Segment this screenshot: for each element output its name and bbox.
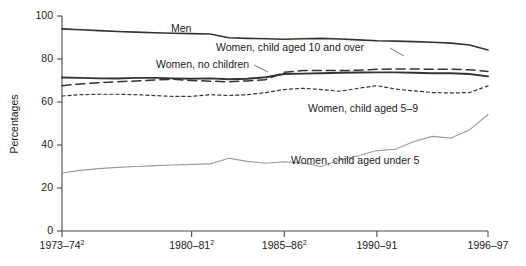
annotation-women-child-under-5: Women, child aged under 5 bbox=[291, 154, 419, 166]
line-chart: 020406080100 Percentages 1973–7421980–81… bbox=[0, 0, 526, 266]
annotation-group: Men Women, child aged 10 and over Women,… bbox=[156, 22, 419, 166]
y-tick-group: 020406080100 bbox=[35, 9, 62, 236]
annotation-women-no-children: Women, no children bbox=[156, 58, 249, 70]
y-tick-label: 20 bbox=[41, 181, 53, 193]
x-tick-group: 1973–7421980–8121985–8621990–911996–97 bbox=[40, 231, 509, 251]
y-tick-label: 40 bbox=[41, 138, 53, 150]
series-line-women-child-aged-5-9 bbox=[62, 86, 488, 97]
x-tick-label: 1990–91 bbox=[356, 239, 397, 251]
x-axis: 1973–7421980–8121985–8621990–911996–97 bbox=[40, 231, 509, 251]
series-line-women-no-children bbox=[62, 69, 488, 86]
x-tick-label: 1996–97 bbox=[468, 239, 509, 251]
y-tick-label: 60 bbox=[41, 95, 53, 107]
y-tick-label: 0 bbox=[47, 224, 53, 236]
annotation-women-child-5-9: Women, child aged 5–9 bbox=[308, 102, 418, 114]
chart-canvas: 020406080100 Percentages 1973–7421980–81… bbox=[0, 0, 526, 266]
leader-line-no-children bbox=[254, 65, 268, 72]
leader-line-child-10-and-over bbox=[390, 48, 404, 56]
y-axis-title: Percentages bbox=[8, 95, 20, 154]
y-tick-label: 100 bbox=[35, 9, 53, 21]
y-axis: 020406080100 Percentages bbox=[8, 9, 62, 236]
x-tick-label: 1973–742 bbox=[40, 239, 85, 251]
series-line-women-child-aged-under-5 bbox=[62, 114, 488, 172]
annotation-men: Men bbox=[171, 22, 192, 34]
annotation-women-child-10-and-over: Women, child aged 10 and over bbox=[216, 41, 365, 53]
x-tick-label: 1980–812 bbox=[169, 239, 214, 251]
x-tick-label: 1985–862 bbox=[262, 239, 307, 251]
y-tick-label: 80 bbox=[41, 52, 53, 64]
